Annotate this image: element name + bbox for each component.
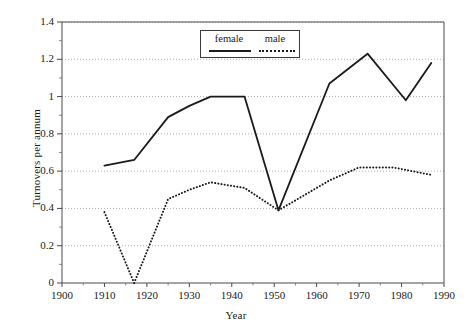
- y-axis-title: Turnovers per annum: [30, 78, 42, 238]
- data-series-layer: [104, 54, 431, 283]
- chart-figure: 1900191019201930194019501960197019801990…: [0, 0, 472, 330]
- x-tick-label: 1940: [212, 289, 252, 301]
- axis-lines: [62, 22, 444, 283]
- x-tick-label: 1960: [297, 289, 337, 301]
- x-tick-label: 1900: [42, 289, 82, 301]
- y-tick-label: 1.2: [20, 52, 54, 64]
- axis-ticks: [57, 22, 444, 287]
- x-tick-label: 1930: [169, 289, 209, 301]
- x-tick-label: 1910: [84, 289, 124, 301]
- series-line-male: [104, 167, 431, 283]
- y-tick-label: 0.2: [20, 239, 54, 251]
- y-tick-label: 0: [20, 276, 54, 288]
- series-line-female: [104, 54, 431, 211]
- x-axis-title: Year: [0, 309, 472, 321]
- x-tick-label: 1950: [254, 289, 294, 301]
- legend: female male: [200, 30, 300, 58]
- y-tick-label: 1.4: [20, 15, 54, 27]
- x-tick-label: 1980: [382, 289, 422, 301]
- x-tick-label: 1990: [424, 289, 464, 301]
- x-tick-label: 1920: [127, 289, 167, 301]
- legend-label-female: female: [205, 33, 253, 44]
- legend-swatch-female: [209, 50, 251, 52]
- x-tick-label: 1970: [339, 289, 379, 301]
- legend-swatch-male: [259, 50, 295, 52]
- legend-label-male: male: [253, 33, 297, 44]
